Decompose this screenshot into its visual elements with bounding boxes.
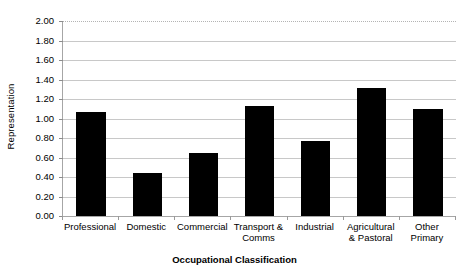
x-axis-tick-mark xyxy=(118,216,119,220)
x-axis-tick-mark xyxy=(399,216,400,220)
y-axis-tick-label: 0.00 xyxy=(36,211,55,221)
x-axis-category-label-line: Commercial xyxy=(175,221,229,232)
x-axis-category-label: Professional xyxy=(62,221,118,251)
x-axis-category-label-line: Comms xyxy=(231,232,285,243)
bar-slot xyxy=(63,21,119,216)
y-axis-tick-label: 1.00 xyxy=(36,114,55,124)
x-axis-tick-mark xyxy=(287,216,288,220)
bar-slot xyxy=(400,21,456,216)
bar-slot xyxy=(119,21,175,216)
x-axis-category-label: Commercial xyxy=(174,221,230,251)
y-axis-tick-label: 0.20 xyxy=(36,192,55,202)
x-axis-category-label-line: Primary xyxy=(400,232,454,243)
y-axis-tick-label: 1.40 xyxy=(36,75,55,85)
x-axis-tick-mark xyxy=(455,216,456,220)
x-axis-tick-mark xyxy=(174,216,175,220)
bar-chart: Representation 2.001.801.601.401.201.000… xyxy=(0,0,469,275)
y-axis-tick-label: 0.40 xyxy=(36,172,55,182)
x-axis-category-label: Transport &Comms xyxy=(230,221,286,251)
x-axis-category-label: OtherPrimary xyxy=(399,221,455,251)
x-axis-tick-labels: ProfessionalDomesticCommercialTransport … xyxy=(62,221,455,251)
bar[interactable] xyxy=(76,112,105,216)
x-axis-category-label-line: Professional xyxy=(63,221,117,232)
bar[interactable] xyxy=(301,141,330,216)
x-axis-title: Occupational Classification xyxy=(0,254,469,265)
x-axis-category-label-line: Industrial xyxy=(288,221,342,232)
bar[interactable] xyxy=(245,106,274,216)
x-axis-category-label-line: & Pastoral xyxy=(344,232,398,243)
x-axis-category-label-line: Transport & xyxy=(231,221,285,232)
x-axis-category-label-line: Agricultural xyxy=(344,221,398,232)
x-axis-tick-mark xyxy=(343,216,344,220)
bar-slot xyxy=(288,21,344,216)
x-axis-tick-mark xyxy=(62,216,63,220)
y-axis-tick-label: 1.60 xyxy=(36,55,55,65)
y-axis-title: Representation xyxy=(0,0,22,232)
y-axis-tick-label: 1.80 xyxy=(36,36,55,46)
y-axis-tick-label: 1.20 xyxy=(36,94,55,104)
bar-slot xyxy=(231,21,287,216)
x-axis-category-label: Industrial xyxy=(287,221,343,251)
bar-slot xyxy=(175,21,231,216)
x-axis-tick-mark xyxy=(230,216,231,220)
bar[interactable] xyxy=(413,109,442,216)
x-axis-category-label: Domestic xyxy=(118,221,174,251)
bars-container xyxy=(63,21,456,216)
y-axis-tick-label: 0.80 xyxy=(36,133,55,143)
plot-area xyxy=(62,21,456,217)
bar[interactable] xyxy=(133,173,162,216)
y-axis-tick-label: 2.00 xyxy=(36,16,55,26)
y-axis-title-text: Representation xyxy=(6,83,17,149)
x-axis-category-label-line: Other xyxy=(400,221,454,232)
x-axis-tick-marks xyxy=(62,216,455,220)
y-axis-tick-labels: 2.001.801.601.401.201.000.800.600.400.20… xyxy=(22,21,58,216)
x-axis-category-label: Agricultural& Pastoral xyxy=(343,221,399,251)
y-axis-tick-label: 0.60 xyxy=(36,153,55,163)
x-axis-category-label-line: Domestic xyxy=(119,221,173,232)
bar-slot xyxy=(344,21,400,216)
bar[interactable] xyxy=(189,153,218,216)
bar[interactable] xyxy=(357,88,386,216)
